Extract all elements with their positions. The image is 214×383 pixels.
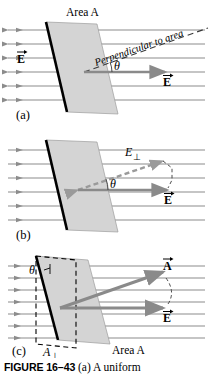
e-perp-label-b: E ⊥ <box>124 145 141 162</box>
panel-label-c: (c) <box>12 344 26 358</box>
svg-text:E: E <box>124 145 133 159</box>
panel-c-diagram: θ A E A ⊥ Area A (c) <box>0 248 214 358</box>
theta-label-a: θ <box>114 59 120 73</box>
svg-text:A: A <box>163 259 172 273</box>
svg-text:E: E <box>164 193 172 207</box>
projection-dashed-b <box>163 161 172 188</box>
e-field-label-c: E <box>163 310 174 326</box>
theta-label-b: θ <box>110 177 116 191</box>
e-field-label-right-a: E <box>163 74 174 90</box>
field-arrowheads-c <box>14 264 21 340</box>
panel-a: Area A Perpendicular to area θ E E (a) <box>0 0 214 128</box>
svg-text:E: E <box>163 311 171 325</box>
panel-c: θ A E A ⊥ Area A (c) <box>0 248 214 358</box>
figure-number: FIGURE 16–43 <box>4 361 75 373</box>
field-arrowheads-b <box>16 148 23 222</box>
field-lines-c <box>8 266 205 338</box>
area-label-a: Area A <box>66 6 100 18</box>
svg-text:⊥: ⊥ <box>133 152 141 162</box>
svg-text:Perpendicular to area: Perpendicular to area <box>92 27 184 68</box>
angle-arc-c <box>166 278 172 304</box>
panel-b: E ⊥ θ E (b) <box>0 128 214 248</box>
panel-a-diagram: Area A Perpendicular to area θ E E (a) <box>0 0 214 128</box>
a-perp-label-c: A ⊥ <box>42 345 59 358</box>
svg-text:A: A <box>42 345 51 358</box>
svg-text:E: E <box>163 75 171 89</box>
area-label-c: Area A <box>112 344 146 356</box>
figure-caption-text: (a) A uniform <box>78 361 141 373</box>
svg-text:E: E <box>17 52 25 66</box>
area-vector-label-c: A <box>163 257 174 273</box>
e-field-label-b: E <box>164 192 175 208</box>
panel-label-b: (b) <box>16 228 31 242</box>
perpendicular-label-a: Perpendicular to area <box>92 27 184 68</box>
svg-text:⊥: ⊥ <box>51 351 59 358</box>
figure-caption: FIGURE 16–43 (a) A uniform <box>4 361 214 374</box>
panel-label-a: (a) <box>16 108 30 122</box>
figure-16-43: Area A Perpendicular to area θ E E (a) <box>0 0 214 383</box>
theta-label-c: θ <box>29 263 35 277</box>
panel-b-diagram: E ⊥ θ E (b) <box>0 128 214 248</box>
theta-arc-a <box>110 62 112 72</box>
